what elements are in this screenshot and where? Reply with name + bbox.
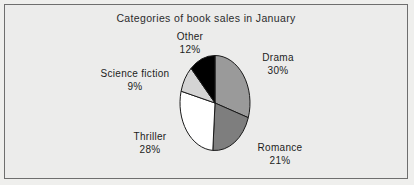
chart-panel: Categories of book sales in January Dram… [4, 4, 408, 179]
slice-label-thriller: Thriller 28% [110, 131, 190, 156]
slice-label-romance-name: Romance [238, 142, 322, 155]
pie-chart: Drama 30% Romance 21% Thriller 28% Scien… [5, 5, 409, 180]
slice-label-other-value: 12% [145, 44, 235, 57]
slice-label-other-name: Other [145, 31, 235, 44]
slice-label-science-fiction-value: 9% [83, 81, 187, 94]
slice-label-science-fiction: Science fiction 9% [83, 68, 187, 93]
slice-label-drama-value: 30% [238, 65, 318, 78]
slice-label-romance-value: 21% [238, 155, 322, 168]
chart-screenshot: Categories of book sales in January Dram… [0, 0, 414, 185]
slice-label-other: Other 12% [145, 31, 235, 56]
slice-label-drama: Drama 30% [238, 52, 318, 77]
slice-label-thriller-value: 28% [110, 144, 190, 157]
slice-label-drama-name: Drama [238, 52, 318, 65]
slice-label-thriller-name: Thriller [110, 131, 190, 144]
slice-label-science-fiction-name: Science fiction [83, 68, 187, 81]
slice-label-romance: Romance 21% [238, 142, 322, 167]
